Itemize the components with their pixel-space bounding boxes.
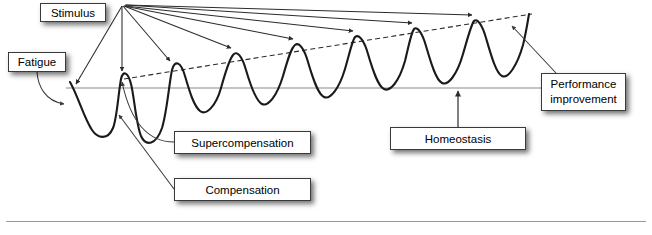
label-performance-improvement: Performance improvement [541, 73, 626, 111]
fatigue-callout-arrow [37, 72, 64, 104]
performance-improvement-callout-arrow [512, 26, 556, 73]
stimulus-arrow-5 [124, 6, 293, 39]
label-stimulus: Stimulus [40, 3, 106, 22]
stimulus-arrow-8 [126, 5, 472, 15]
footer-divider [6, 221, 646, 222]
stimulus-arrow-group [76, 5, 472, 84]
compensation-callout-arrow [119, 115, 174, 189]
diagram-canvas: Stimulus Fatigue Supercompensation Compe… [0, 0, 652, 235]
label-homeostasis: Homeostasis [390, 127, 526, 150]
stimulus-arrow-3 [123, 6, 170, 61]
performance-improvement-line-2: improvement [550, 92, 616, 107]
performance-improvement-line-1: Performance [551, 77, 617, 92]
performance-trend-dashed-line [124, 14, 532, 79]
supercompensation-diagram [0, 0, 652, 235]
label-fatigue: Fatigue [8, 52, 66, 72]
label-supercompensation: Supercompensation [174, 131, 311, 154]
stimulus-arrow-6 [125, 6, 353, 31]
stimulus-arrow-7 [125, 5, 412, 23]
stimulus-arrow-4 [124, 6, 231, 48]
label-compensation: Compensation [174, 178, 311, 201]
